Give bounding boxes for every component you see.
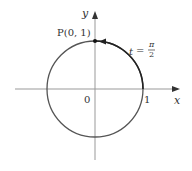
y-axis-label: y	[81, 7, 89, 20]
t-var: t	[129, 46, 134, 57]
arc-arrow-icon	[99, 39, 106, 45]
origin-label: 0	[84, 94, 90, 105]
t-numerator: π	[148, 40, 155, 49]
unit-circle-diagram: y x 0 1 P(0, 1) t = π 2	[0, 0, 192, 171]
y-axis-arrow-icon	[92, 11, 98, 19]
x-axis-arrow-icon	[172, 86, 180, 92]
t-equals: =	[136, 45, 144, 56]
t-denominator: 2	[149, 50, 154, 59]
point-p	[93, 39, 97, 43]
point-label: P(0, 1)	[57, 27, 91, 38]
x-tick-label: 1	[144, 94, 150, 105]
x-axis-label: x	[174, 94, 181, 107]
